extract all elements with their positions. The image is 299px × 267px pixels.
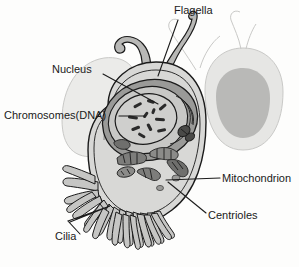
diagram-canvas: Flagella Nucleus Chromosomes(DNA) Mitoch… [0, 0, 299, 267]
label-flagella: Flagella [174, 4, 213, 16]
label-mitochondrion: Mitochondrion [222, 172, 291, 184]
label-chromosomes: Chromosomes(DNA) [4, 109, 106, 121]
cell-diagram: Flagella Nucleus Chromosomes(DNA) Mitoch… [0, 0, 299, 267]
label-cilia: Cilia [55, 230, 77, 242]
label-nucleus: Nucleus [52, 63, 92, 75]
label-centrioles: Centrioles [208, 209, 258, 221]
ghost-cell-right [205, 11, 283, 150]
